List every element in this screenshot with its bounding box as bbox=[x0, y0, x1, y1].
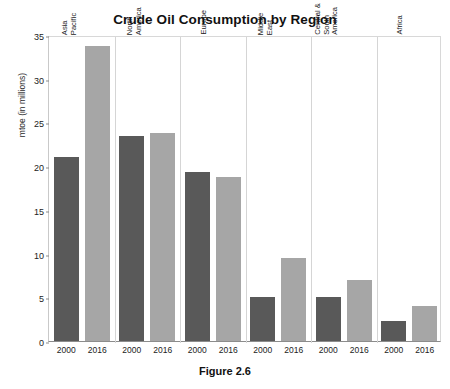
region-label-text: Central &SouthAmerica bbox=[314, 0, 340, 35]
y-tick-label: 30 bbox=[4, 76, 44, 86]
y-axis-title: mtoe (in millions) bbox=[17, 45, 27, 165]
group-separator bbox=[246, 37, 247, 343]
y-tick-label: 5 bbox=[4, 294, 44, 304]
bar-middle-east-2016[interactable] bbox=[281, 258, 306, 341]
y-tick-mark bbox=[46, 80, 49, 81]
x-tick-label: 2016 bbox=[412, 345, 437, 355]
bar-africa-2016[interactable] bbox=[412, 306, 437, 341]
x-tick-label: 2000 bbox=[316, 345, 341, 355]
region-label-text: NorthAmerica bbox=[126, 0, 143, 35]
x-tick-label: 2016 bbox=[347, 345, 372, 355]
y-tick-label: 15 bbox=[4, 207, 44, 217]
y-tick-mark bbox=[46, 255, 49, 256]
y-tick-mark bbox=[46, 343, 49, 344]
y-tick-label: 0 bbox=[4, 338, 44, 348]
region-label-text: AsiaPacific bbox=[61, 0, 78, 35]
bar-central-south-america-2016[interactable] bbox=[347, 280, 372, 341]
y-tick-mark bbox=[46, 37, 49, 38]
bar-central-south-america-2000[interactable] bbox=[316, 297, 341, 341]
region-label-text: Africa bbox=[397, 0, 406, 35]
group-separator bbox=[180, 37, 181, 343]
plot-area: mtoe (in millions) 05101520253035 AsiaPa… bbox=[48, 36, 441, 342]
x-tick-label: 2000 bbox=[250, 345, 275, 355]
region-label-text: MiddleEast bbox=[257, 0, 274, 35]
group-separator bbox=[311, 37, 312, 343]
x-tick-label: 2016 bbox=[281, 345, 306, 355]
bar-middle-east-2000[interactable] bbox=[250, 297, 275, 341]
bar-asia-pacific-2000[interactable] bbox=[54, 157, 79, 341]
x-tick-label: 2000 bbox=[119, 345, 144, 355]
x-tick-label: 2016 bbox=[216, 345, 241, 355]
x-tick-label: 2000 bbox=[381, 345, 406, 355]
bar-europe-2016[interactable] bbox=[216, 177, 241, 341]
bar-north-america-2016[interactable] bbox=[150, 133, 175, 341]
y-tick-mark bbox=[46, 124, 49, 125]
bar-north-america-2000[interactable] bbox=[119, 136, 144, 341]
region-label-text: Europe bbox=[200, 0, 209, 35]
y-tick-label: 20 bbox=[4, 163, 44, 173]
figure-container: Crude Oil Consumption by Region mtoe (in… bbox=[0, 0, 450, 389]
figure-caption: Figure 2.6 bbox=[0, 365, 450, 377]
bar-europe-2000[interactable] bbox=[185, 172, 210, 341]
x-tick-label: 2000 bbox=[54, 345, 79, 355]
y-tick-label: 10 bbox=[4, 251, 44, 261]
x-tick-label: 2016 bbox=[85, 345, 110, 355]
group-separator bbox=[115, 37, 116, 343]
y-tick-mark bbox=[46, 299, 49, 300]
y-tick-mark bbox=[46, 211, 49, 212]
bar-asia-pacific-2016[interactable] bbox=[85, 46, 110, 342]
y-tick-label: 35 bbox=[4, 32, 44, 42]
x-tick-label: 2000 bbox=[185, 345, 210, 355]
group-separator bbox=[377, 37, 378, 343]
x-tick-label: 2016 bbox=[150, 345, 175, 355]
bar-africa-2000[interactable] bbox=[381, 321, 406, 341]
y-tick-label: 25 bbox=[4, 119, 44, 129]
y-tick-mark bbox=[46, 168, 49, 169]
